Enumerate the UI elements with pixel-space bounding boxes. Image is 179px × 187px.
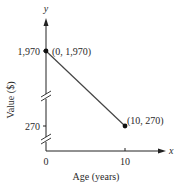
y-axis-var: y	[43, 3, 49, 14]
y-axis-arrow-icon	[44, 18, 49, 26]
x-axis	[46, 149, 166, 154]
chart-canvas: (0, 1,970) (10, 270) 1,970 270 0 10 y x …	[0, 0, 179, 187]
y-tick-label-1970: 1,970	[18, 46, 41, 57]
x-tick-label-0: 0	[44, 156, 49, 167]
x-axis-var: x	[168, 145, 174, 156]
data-line	[46, 51, 125, 126]
data-point-0	[44, 49, 49, 54]
x-axis-title: Age (years)	[73, 171, 120, 183]
x-axis-arrow-icon	[158, 149, 166, 154]
y-tick-label-270: 270	[25, 121, 40, 132]
y-axis	[44, 18, 49, 151]
point-label-0: (0, 1,970)	[52, 46, 91, 58]
point-label-1: (10, 270)	[127, 115, 164, 127]
y-axis-title: Value ($)	[5, 82, 17, 119]
x-tick-label-10: 10	[120, 156, 130, 167]
